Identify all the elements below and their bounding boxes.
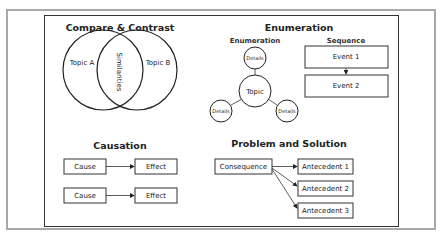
consequence-label: Consequence xyxy=(220,163,267,171)
topic-b-label: Topic B xyxy=(145,59,171,67)
connector xyxy=(231,99,242,105)
event-1-label: Event 1 xyxy=(333,53,360,61)
antecedent-3-label: Antecedent 3 xyxy=(302,207,349,215)
enumeration-subtitle: Enumeration xyxy=(230,37,281,45)
similarities-label: Similarities xyxy=(115,53,123,92)
antecedent-2-label: Antecedent 2 xyxy=(302,185,349,193)
sequence-subtitle: Sequence xyxy=(327,37,366,45)
event-2-label: Event 2 xyxy=(333,82,360,90)
cause-label: Cause xyxy=(74,163,96,171)
problem-arrow xyxy=(272,169,297,208)
effect-label: Effect xyxy=(146,192,166,200)
compare-contrast-section: Compare & Contrast Topic A Topic B Simil… xyxy=(63,22,177,110)
text-structures-diagram: Compare & Contrast Topic A Topic B Simil… xyxy=(0,0,444,237)
causation-section: Causation Cause Effect Cause Effect xyxy=(64,140,177,203)
venn-circle-a xyxy=(63,30,143,110)
connector xyxy=(268,99,277,105)
topic-a-label: Topic A xyxy=(69,59,95,67)
problem-solution-section: Problem and Solution Consequence Anteced… xyxy=(215,138,353,218)
cause-label: Cause xyxy=(74,192,96,200)
details-label: Details xyxy=(246,55,264,61)
antecedent-1-label: Antecedent 1 xyxy=(302,163,349,171)
enumeration-section: Enumeration Enumeration Details Topic De… xyxy=(210,22,388,122)
enumeration-section-title: Enumeration xyxy=(265,22,334,33)
causation-title: Causation xyxy=(93,140,147,151)
compare-contrast-title: Compare & Contrast xyxy=(66,22,175,33)
venn-circle-b xyxy=(97,30,177,110)
problem-solution-title: Problem and Solution xyxy=(231,138,347,149)
topic-label: Topic xyxy=(245,88,264,96)
details-label: Details xyxy=(278,108,296,114)
details-label: Details xyxy=(212,108,230,114)
effect-label: Effect xyxy=(146,163,166,171)
problem-arrow xyxy=(272,168,297,186)
